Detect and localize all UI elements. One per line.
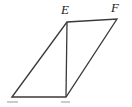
parallelogram-outline: [12, 19, 117, 97]
cropped-label-smudge-bottom-left: [7, 101, 18, 103]
cropped-label-smudge-bottom-right: [61, 101, 70, 103]
vertex-label-f: F: [111, 1, 119, 14]
diagonal-segment-E-to-bottom-right: [66, 22, 67, 97]
vertex-label-e: E: [61, 3, 69, 16]
geometry-figure: E F: [0, 0, 132, 107]
